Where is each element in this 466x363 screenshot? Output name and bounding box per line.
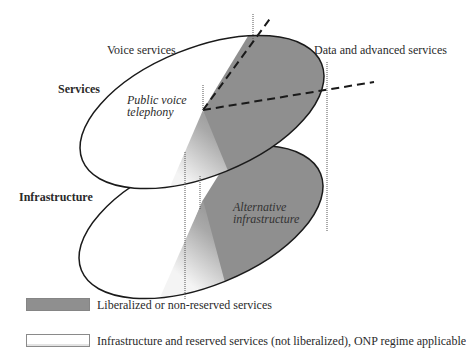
infrastructure-layer-label: Infrastructure xyxy=(19,190,93,204)
legend-swatch-liberalized xyxy=(26,298,90,311)
legend-label-reserved: Infrastructure and reserved services (no… xyxy=(97,334,466,348)
services-layer-label: Services xyxy=(58,82,100,96)
legend-swatch-reserved xyxy=(26,334,90,347)
data-services-label: Data and advanced services xyxy=(314,43,447,57)
voice-services-label: Voice services xyxy=(107,43,176,57)
legend-label-liberalized: Liberalized or non-reserved services xyxy=(97,298,272,312)
public-voice-label-2: telephony xyxy=(127,105,174,119)
alternative-infrastructure-label-2: infrastructure xyxy=(233,212,299,226)
